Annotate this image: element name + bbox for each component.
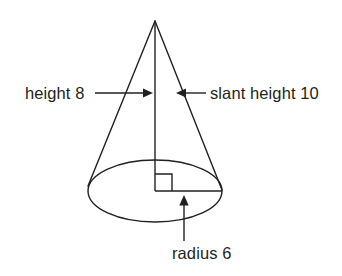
slant-height-label: slant height 10 (210, 84, 319, 102)
left-slant-edge (88, 21, 155, 186)
height-arrowhead-icon (143, 89, 153, 98)
radius-label: radius 6 (172, 244, 232, 262)
cone-figure: height 8 slant height 10 radius 6 (0, 0, 342, 276)
slant-height-arrowhead-icon (176, 89, 186, 98)
right-angle-marker-icon (155, 174, 172, 191)
radius-arrowhead-icon (179, 195, 188, 206)
cone-diagram-canvas: height 8 slant height 10 radius 6 (0, 0, 342, 276)
height-label: height 8 (25, 84, 85, 102)
